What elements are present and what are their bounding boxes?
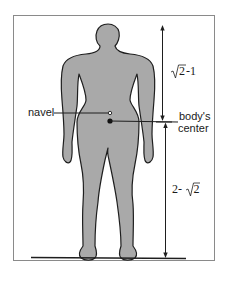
navel-marker [108, 111, 111, 114]
body-proportion-diagram: navel body's center 2 -1 2- 2 [0, 0, 229, 282]
upper-measure-radicand: 2 [179, 66, 185, 77]
diagram-canvas [0, 0, 229, 282]
lower-measure-arrow [163, 123, 167, 259]
upper-measure-arrow [160, 25, 164, 121]
body-center-label-line2: center [178, 123, 209, 134]
lower-measure-radicand: 2 [194, 184, 200, 195]
human-silhouette [61, 24, 154, 260]
ground-line [31, 258, 186, 259]
body-center-label-line1: body's [179, 111, 210, 122]
lower-measure-prefix: 2- [172, 184, 182, 195]
navel-label: navel [28, 107, 54, 118]
upper-measure-suffix: -1 [186, 66, 196, 77]
